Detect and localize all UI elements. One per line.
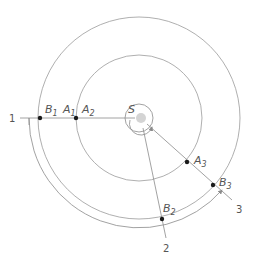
label-a1: A1: [62, 103, 76, 118]
label-line-2: 2: [163, 243, 169, 254]
sun-icon: [136, 113, 146, 123]
label-a3: A3: [193, 154, 207, 169]
point-a3: [185, 160, 189, 164]
label-sun: S: [128, 103, 135, 116]
point-b3: [211, 183, 215, 187]
orbit-diagram: S 1 2 3 B1 A1 A2 A3 B3 B2: [0, 0, 254, 260]
angle-arc-large: [29, 118, 222, 228]
point-b1: [38, 116, 42, 120]
label-a2: A2: [81, 103, 95, 118]
point-b2: [160, 217, 164, 221]
label-line-3: 3: [236, 204, 242, 215]
label-b3: B3: [219, 176, 232, 191]
label-b2: B2: [163, 202, 176, 217]
line-2: [143, 128, 166, 238]
label-line-1: 1: [9, 113, 15, 124]
label-b1: B1: [45, 103, 58, 118]
